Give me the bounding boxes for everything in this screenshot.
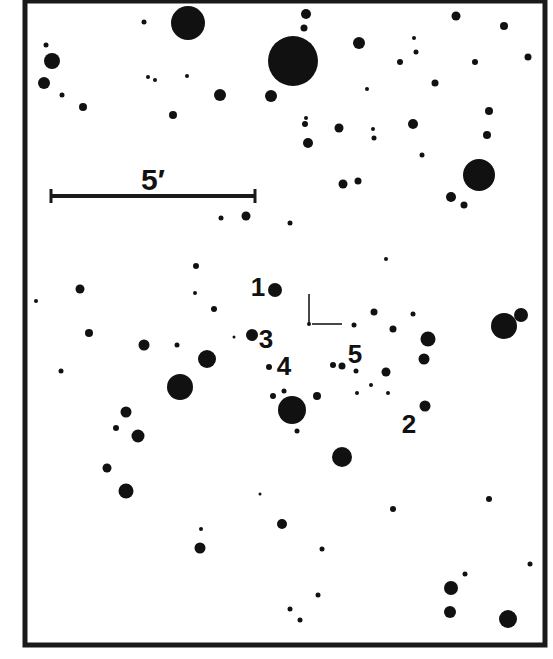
star: [278, 396, 306, 424]
star: [153, 78, 157, 82]
star: [320, 547, 325, 552]
star: [301, 25, 308, 32]
star: [354, 369, 359, 374]
star: [288, 607, 293, 612]
star: [411, 312, 416, 317]
star: [268, 283, 282, 297]
star: [353, 37, 365, 49]
star: [390, 506, 396, 512]
star: [185, 74, 189, 78]
star: [268, 36, 318, 86]
star: [242, 212, 251, 221]
star: [483, 131, 491, 139]
star: [198, 350, 216, 368]
star: [146, 75, 150, 79]
star: [408, 119, 418, 129]
chart-frame: [25, 1, 545, 645]
star-label-1: 1: [251, 272, 265, 302]
star: [499, 610, 517, 628]
star-field: [34, 6, 533, 628]
star: [419, 354, 430, 365]
star: [525, 54, 532, 61]
star: [339, 363, 346, 370]
star: [486, 496, 492, 502]
star: [371, 309, 378, 316]
star: [485, 107, 493, 115]
star: [352, 323, 357, 328]
star: [59, 369, 64, 374]
star-label-3: 3: [259, 324, 273, 354]
star-label-4: 4: [277, 351, 292, 381]
star: [85, 329, 93, 337]
star-labels: 13452: [251, 272, 416, 439]
star: [412, 36, 416, 40]
star: [121, 407, 132, 418]
star: [472, 59, 478, 65]
star: [38, 77, 50, 89]
star: [199, 527, 203, 531]
star: [414, 50, 419, 55]
star: [500, 22, 508, 30]
star: [463, 159, 495, 191]
star: [446, 192, 456, 202]
star: [313, 392, 321, 400]
star: [277, 519, 287, 529]
star: [79, 103, 87, 111]
star: [195, 543, 206, 554]
star: [44, 43, 49, 48]
star: [365, 87, 369, 91]
star: [282, 389, 287, 394]
star: [288, 221, 293, 226]
star: [193, 263, 199, 269]
star: [266, 364, 272, 370]
star: [514, 308, 528, 322]
star: [219, 216, 224, 221]
star: [397, 59, 403, 65]
star: [169, 111, 177, 119]
star-finding-chart: 5′ 13452: [0, 0, 553, 659]
star: [463, 572, 468, 577]
star: [421, 332, 436, 347]
star: [384, 257, 388, 261]
star: [171, 6, 205, 40]
star: [461, 202, 468, 209]
star: [298, 618, 303, 623]
star: [304, 116, 308, 120]
star: [302, 121, 308, 127]
star: [167, 374, 193, 400]
star: [301, 9, 311, 19]
star: [444, 606, 456, 618]
star: [193, 291, 197, 295]
star: [233, 336, 236, 339]
star-label-2: 2: [402, 409, 416, 439]
star: [34, 299, 38, 303]
star: [265, 90, 277, 102]
star: [339, 180, 348, 189]
star: [119, 484, 134, 499]
star: [175, 343, 180, 348]
star: [303, 138, 313, 148]
star: [295, 429, 300, 434]
star: [390, 326, 397, 333]
star: [491, 313, 517, 339]
star: [355, 391, 359, 395]
star: [386, 391, 390, 395]
star: [432, 80, 439, 87]
star: [60, 93, 65, 98]
star: [528, 562, 533, 567]
star: [420, 153, 425, 158]
star: [103, 464, 112, 473]
star: [142, 20, 147, 25]
scale-bar: 5′: [51, 163, 255, 203]
star: [372, 136, 377, 141]
star-label-5: 5: [348, 339, 362, 369]
star: [382, 368, 391, 377]
star: [369, 383, 373, 387]
star: [139, 340, 150, 351]
star: [246, 329, 258, 341]
star: [132, 430, 145, 443]
target-star: [307, 322, 311, 326]
star: [316, 593, 321, 598]
scale-bar-label: 5′: [141, 163, 165, 196]
star: [444, 581, 458, 595]
